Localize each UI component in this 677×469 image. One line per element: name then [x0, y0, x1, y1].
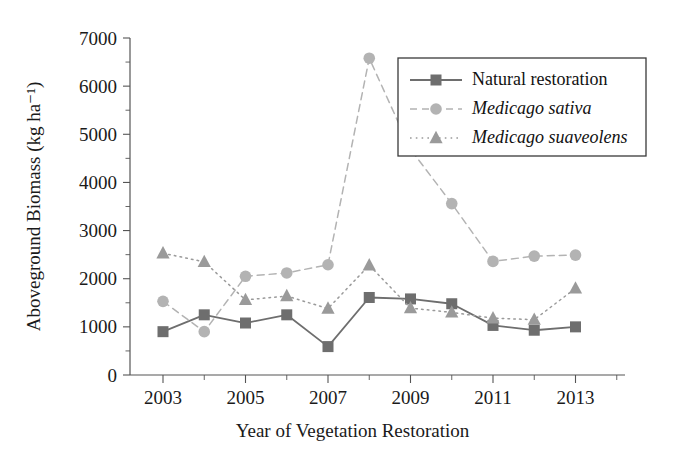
data-point — [281, 267, 293, 279]
series-square — [158, 292, 582, 352]
data-point — [569, 281, 582, 293]
data-point — [486, 311, 499, 323]
y-axis-title: Aboveground Biomass (kg ha⁻¹) — [23, 82, 45, 331]
data-point — [281, 309, 292, 320]
data-point — [240, 318, 251, 329]
x-tick-label: 2013 — [557, 387, 595, 408]
data-point — [570, 321, 581, 332]
data-point — [198, 326, 210, 338]
y-axis-ticks: 01000200030004000500060007000 — [79, 28, 130, 386]
data-point — [321, 301, 334, 313]
data-point — [158, 326, 169, 337]
data-point — [239, 293, 252, 305]
data-point — [157, 296, 169, 308]
data-point — [528, 250, 540, 262]
y-tick-label: 6000 — [79, 76, 117, 97]
x-tick-label: 2007 — [309, 387, 347, 408]
x-tick-label: 2003 — [144, 387, 182, 408]
y-tick-label: 7000 — [79, 28, 117, 49]
data-point — [363, 258, 376, 270]
chart-figure: 01000200030004000500060007000 2003200520… — [0, 0, 677, 469]
y-tick-label: 1000 — [79, 316, 117, 337]
data-point — [570, 249, 582, 261]
legend-label: Medicago sativa — [471, 98, 591, 118]
legend-marker-circle — [430, 103, 442, 115]
y-tick-label: 3000 — [79, 220, 117, 241]
data-point — [322, 259, 334, 271]
data-point — [529, 325, 540, 336]
data-point — [199, 309, 210, 320]
data-point — [446, 198, 458, 210]
x-tick-label: 2005 — [227, 387, 265, 408]
x-axis-ticks: 200320052007200920112013 — [144, 375, 617, 408]
chart-canvas: 01000200030004000500060007000 2003200520… — [0, 0, 677, 469]
data-point — [528, 312, 541, 324]
chart-legend: Natural restorationMedicago sativaMedica… — [398, 58, 646, 156]
data-point — [156, 246, 169, 258]
data-point — [280, 289, 293, 301]
data-point — [363, 52, 375, 64]
data-point — [323, 341, 334, 352]
y-tick-label: 2000 — [79, 268, 117, 289]
data-point — [240, 271, 252, 283]
x-tick-label: 2009 — [392, 387, 430, 408]
data-point — [364, 292, 375, 303]
x-axis-title: Year of Vegetation Restoration — [236, 420, 470, 441]
legend-label: Natural restoration — [472, 69, 607, 89]
data-point — [487, 256, 499, 268]
y-tick-label: 5000 — [79, 124, 117, 145]
legend-label: Medicago suaveolens — [471, 127, 627, 147]
y-tick-label: 0 — [108, 365, 118, 386]
x-tick-label: 2011 — [474, 387, 511, 408]
y-tick-label: 4000 — [79, 172, 117, 193]
data-point — [198, 255, 211, 267]
legend-marker-square — [431, 75, 442, 86]
